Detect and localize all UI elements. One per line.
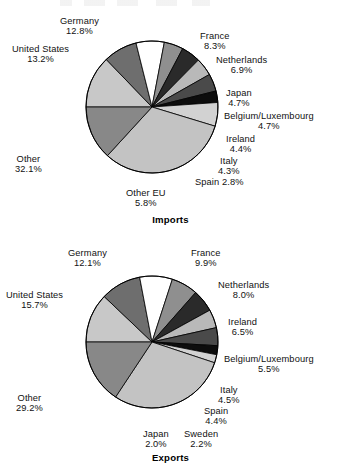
pie-label-japan: Japan4.7% — [226, 88, 252, 109]
pie-label-name: Netherlands — [218, 280, 269, 290]
pie-label-name: Other EU — [126, 188, 166, 198]
pie-label-value: 6.9% — [216, 65, 267, 75]
pie-label-value: 4.3% — [218, 166, 240, 176]
pie-label-other: Other32.1% — [15, 154, 42, 175]
pie-label-value: 4.4% — [204, 416, 228, 426]
pie-label-sweden: Sweden2.2% — [184, 429, 218, 450]
pie-label-france: France8.3% — [200, 31, 230, 52]
pie-label-italy: Italy4.3% — [218, 156, 240, 177]
pie-label-name: Belgium/Luxembourg — [224, 354, 314, 364]
pie-label-name: United States — [12, 44, 69, 54]
pie-label-name: Other — [15, 154, 42, 164]
pie-label-netherlands: Netherlands6.9% — [216, 55, 267, 76]
pie-label-name: Other — [16, 393, 43, 403]
pie-label-value: 5.8% — [126, 198, 166, 208]
pie-label-germany: Germany12.1% — [68, 248, 107, 269]
pie-label-name: Japan — [143, 429, 169, 439]
pie-label-united-states: United States15.7% — [6, 290, 63, 311]
pie-label-japan: Japan2.0% — [143, 429, 169, 450]
pie-label-name: Netherlands — [216, 55, 267, 65]
exports-chart-block: Germany12.1%France9.9%Netherlands8.0%Ire… — [0, 236, 341, 472]
pie-label-value: 4.4% — [226, 144, 255, 154]
pie-label-name: France — [191, 248, 221, 258]
pie-label-name: Spain — [204, 406, 228, 416]
pie-label-united-states: United States13.2% — [12, 44, 69, 65]
pie-label-value: 4.7% — [224, 121, 314, 131]
pie-label-value: 4.5% — [218, 395, 240, 405]
pie-label-name: Italy — [218, 385, 240, 395]
imports-caption: Imports — [0, 214, 341, 225]
pie-label-value: 5.5% — [224, 364, 314, 374]
pie-label-name: France — [200, 31, 230, 41]
pie-label-name: Spain — [195, 177, 219, 187]
pie-label-germany: Germany12.8% — [60, 16, 99, 37]
pie-label-name: Belgium/Luxembourg — [224, 111, 314, 121]
pie-label-name: Germany — [60, 16, 99, 26]
pie-label-ireland: Ireland4.4% — [226, 134, 255, 155]
pie-label-value: 8.3% — [200, 41, 230, 51]
pie-label-value: 32.1% — [15, 164, 42, 174]
pie-label-value: 6.5% — [228, 327, 257, 337]
pie-label-other-eu: Other EU5.8% — [126, 188, 166, 209]
pie-label-italy: Italy4.5% — [218, 385, 240, 406]
pie-label-ireland: Ireland6.5% — [228, 317, 257, 338]
imports-chart-block: Germany12.8%France8.3%Netherlands6.9%Jap… — [0, 0, 341, 236]
pie-label-value: 2.8% — [222, 177, 244, 187]
pie-label-value: 12.8% — [60, 26, 99, 36]
pie-label-netherlands: Netherlands8.0% — [218, 280, 269, 301]
pie-label-other: Other29.2% — [16, 393, 43, 414]
pie-label-spain: Spain4.4% — [204, 406, 228, 427]
pie-label-value: 9.9% — [191, 258, 221, 268]
pie-label-value: 2.2% — [184, 439, 218, 449]
pie-label-value: 2.0% — [143, 439, 169, 449]
pie-label-belgium-luxembourg: Belgium/Luxembourg4.7% — [224, 111, 314, 132]
pie-label-name: Japan — [226, 88, 252, 98]
pie-label-name: Ireland — [226, 134, 255, 144]
pie-label-value: 29.2% — [16, 403, 43, 413]
pie-label-value: 4.7% — [226, 98, 252, 108]
pie-label-name: United States — [6, 290, 63, 300]
pie-label-value: 12.1% — [68, 258, 107, 268]
pie-label-value: 13.2% — [12, 54, 69, 64]
pie-label-name: Ireland — [228, 317, 257, 327]
pie-label-france: France9.9% — [191, 248, 221, 269]
exports-caption: Exports — [0, 452, 341, 463]
pie-label-name: Italy — [218, 156, 240, 166]
pie-label-value: 15.7% — [6, 300, 63, 310]
pie-label-spain: Spain 2.8% — [195, 177, 244, 187]
pie-label-belgium-luxembourg: Belgium/Luxembourg5.5% — [224, 354, 314, 375]
pie-label-name: Germany — [68, 248, 107, 258]
pie-label-name: Sweden — [184, 429, 218, 439]
pie-label-value: 8.0% — [218, 290, 269, 300]
